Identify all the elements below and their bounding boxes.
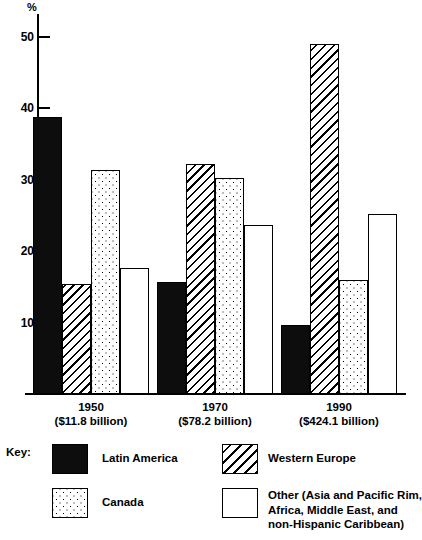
plot-area: % 1020304050 1950($11.8 billion)1970($78…	[0, 0, 422, 436]
category-year-1970: 1970	[155, 400, 275, 414]
category-label-1990: 1990($424.1 billion)	[279, 400, 399, 428]
legend-title: Key:	[6, 446, 31, 458]
bar-1970-dots	[215, 178, 244, 394]
bar-1950-hatch	[62, 284, 91, 394]
category-label-1950: 1950($11.8 billion)	[31, 400, 151, 428]
category-amount-1990: ($424.1 billion)	[279, 414, 399, 428]
category-year-1990: 1990	[279, 400, 399, 414]
legend-swatch-hatch	[222, 444, 258, 474]
legend-label-hatch: Western Europe	[268, 451, 356, 466]
bar-1990-hatch	[310, 44, 339, 394]
bars-layer	[0, 0, 422, 394]
legend-swatch-dots	[52, 488, 88, 518]
category-amount-1950: ($11.8 billion)	[31, 414, 151, 428]
legend-label-solid: Latin America	[102, 451, 178, 466]
category-label-1970: 1970($78.2 billion)	[155, 400, 275, 428]
bar-1950-dots	[91, 170, 120, 394]
bar-1950-open	[120, 268, 149, 394]
bar-1970-hatch	[186, 164, 215, 394]
bar-1990-open	[368, 214, 397, 394]
legend-swatch-open	[222, 488, 258, 518]
bar-1990-dots	[339, 280, 368, 394]
chart-legend: Key: Latin AmericaWestern EuropeCanadaOt…	[0, 440, 422, 540]
bar-chart-figure: % 1020304050 1950($11.8 billion)1970($78…	[0, 0, 422, 540]
legend-label-open: Other (Asia and Pacific Rim, Africa, Mid…	[268, 488, 422, 532]
bar-1950-solid	[33, 117, 62, 394]
category-year-1950: 1950	[31, 400, 151, 414]
bar-1990-solid	[281, 325, 310, 394]
bar-1970-open	[244, 225, 273, 394]
bar-1970-solid	[157, 282, 186, 394]
category-amount-1970: ($78.2 billion)	[155, 414, 275, 428]
legend-label-dots: Canada	[102, 495, 144, 510]
legend-swatch-solid	[52, 444, 88, 474]
